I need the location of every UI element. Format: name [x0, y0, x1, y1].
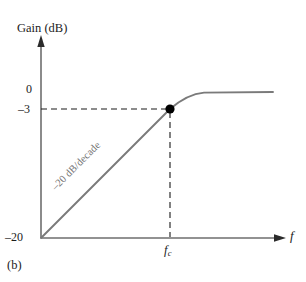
- x-tick-label-subscript: c: [168, 248, 172, 258]
- plot-canvas: [0, 0, 306, 282]
- y-axis-arrowhead: [37, 35, 44, 47]
- x-axis-arrowhead: [274, 234, 286, 241]
- y-axis-title: Gain (dB): [17, 22, 67, 35]
- bode-gain-plot-figure: Gain (dB) 0 –3 –20 f fc –20 dB/decade (b…: [0, 0, 306, 282]
- corner-point-marker: [165, 104, 174, 113]
- x-tick-label-cutoff-frequency: fc: [164, 244, 172, 258]
- y-tick-label-minus-3: –3: [18, 103, 30, 115]
- x-axis: [41, 234, 286, 241]
- y-axis: [37, 35, 44, 238]
- y-tick-label-minus-20: –20: [5, 231, 23, 243]
- x-tick-label-base: f: [164, 243, 167, 257]
- x-axis-title: f: [290, 229, 294, 242]
- subfigure-label: (b): [7, 259, 22, 272]
- y-tick-label-0: 0: [26, 83, 32, 95]
